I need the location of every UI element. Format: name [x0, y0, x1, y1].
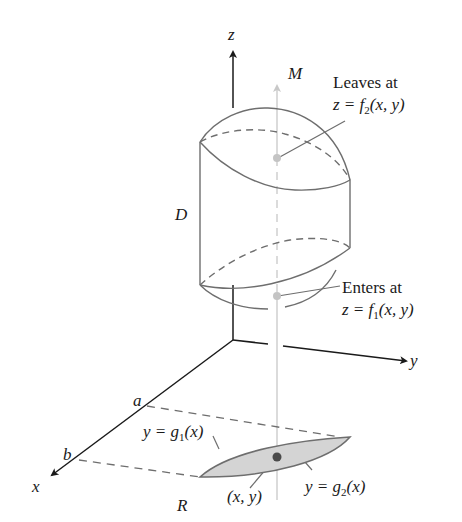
- region-R-label: R: [177, 497, 187, 514]
- g1-boundary-label: y = g1(x): [143, 423, 203, 443]
- enters-at-label: Enters at z = f1(x, y): [342, 279, 414, 321]
- entry-point: [273, 292, 281, 300]
- leaves-text: Leaves at: [333, 74, 405, 91]
- leaves-at-label: Leaves at z = f2(x, y): [333, 74, 405, 116]
- y-axis-label: y: [410, 352, 418, 369]
- bound-a-label: a: [133, 392, 142, 409]
- solid-D: [200, 108, 350, 309]
- enters-text: Enters at: [342, 279, 414, 296]
- x-axis-label: x: [32, 478, 40, 495]
- bound-b-label: b: [63, 446, 72, 463]
- leaves-equation: z = f2(x, y): [333, 96, 405, 116]
- x-axis: [52, 340, 233, 475]
- g2-boundary-label: y = g2(x): [305, 478, 365, 498]
- enters-equation: z = f1(x, y): [342, 301, 414, 321]
- z-axis-label: z: [228, 26, 235, 43]
- figure-canvas: z y x M D a b R (x, y) Leaves at z = f2(…: [0, 0, 462, 522]
- y-axis: [233, 340, 406, 361]
- point-xy-label: (x, y): [227, 488, 262, 505]
- exit-point: [273, 154, 281, 162]
- xy-point: [273, 453, 282, 462]
- line-M-label: M: [288, 65, 302, 82]
- solid-D-label: D: [175, 206, 187, 223]
